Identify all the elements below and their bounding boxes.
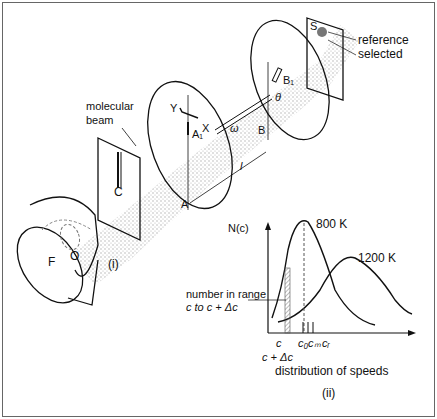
range-strip bbox=[285, 268, 290, 333]
screen-label: S bbox=[310, 20, 317, 32]
oven-label: F bbox=[48, 255, 55, 269]
tick-c0: c₀ bbox=[298, 337, 309, 349]
tick-cr: cᵣ bbox=[322, 337, 331, 349]
range-label: number in range bbox=[186, 288, 266, 300]
y-axis-label: N(c) bbox=[228, 222, 249, 234]
disc-a-label: A bbox=[181, 198, 189, 210]
disc-b-label: B bbox=[258, 124, 265, 136]
orifice-label: O bbox=[70, 249, 79, 263]
reference-label: reference bbox=[358, 33, 409, 47]
tick-c: c bbox=[276, 337, 282, 349]
molecular-beam bbox=[70, 25, 360, 285]
panel-ii-label: (ii) bbox=[322, 386, 335, 400]
length-label: l bbox=[240, 160, 243, 172]
x-caption: distribution of speeds bbox=[275, 364, 388, 378]
curve-800-label: 800 K bbox=[316, 217, 347, 231]
beam-label-2: beam bbox=[86, 114, 114, 126]
curve-1200k bbox=[278, 257, 412, 322]
diagram-canvas: O F (i) C molecular beam Y X A₁ A ω B₁ θ… bbox=[0, 0, 437, 419]
beam-label: molecular bbox=[86, 100, 134, 112]
tick-cm: cₘ bbox=[308, 337, 321, 349]
range-label-2: c to c + Δc bbox=[186, 301, 238, 313]
speed-distribution-graph bbox=[265, 221, 416, 336]
angle-label: θ bbox=[275, 91, 281, 103]
omega-label: ω bbox=[230, 122, 239, 134]
slot-corner-y: Y bbox=[170, 102, 178, 114]
slit-label: C bbox=[114, 185, 123, 199]
slot-corner-x: X bbox=[202, 122, 210, 134]
slot-b-label: B₁ bbox=[283, 74, 294, 86]
tick-c-plus: c + Δc bbox=[262, 351, 293, 363]
slot-a-label: A₁ bbox=[192, 128, 203, 140]
panel-i-label: (i) bbox=[108, 257, 119, 271]
curve-1200-label: 1200 K bbox=[358, 251, 396, 265]
selected-label: selected bbox=[358, 47, 403, 61]
